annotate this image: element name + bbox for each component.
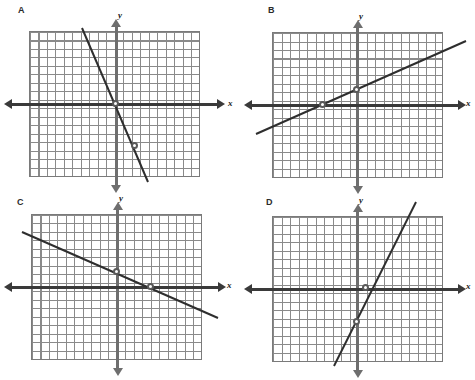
panel-a-point-marker — [112, 100, 119, 107]
panel-a-point-marker — [131, 142, 138, 149]
panel-b-plot: y x — [238, 0, 475, 190]
panel-c-point-marker — [113, 268, 120, 275]
panel-d-point-marker — [362, 284, 369, 291]
panel-c-plot: y x — [0, 190, 238, 380]
panel-b-line — [238, 0, 475, 190]
panel-a-line — [0, 0, 238, 190]
panel-c-point-marker — [147, 283, 154, 290]
panel-b: B y x — [238, 0, 475, 190]
panel-b-point-marker — [319, 101, 326, 108]
panel-d-plot: y x — [238, 190, 475, 380]
panel-c: C y x — [0, 190, 238, 380]
panel-a-plot: y x — [0, 0, 238, 190]
panel-b-point-marker — [353, 86, 360, 93]
panel-c-line — [0, 190, 238, 380]
panel-d-line — [238, 190, 475, 380]
figure-sheet: A y x B — [0, 0, 475, 380]
panel-d: D y x — [238, 190, 475, 380]
panel-a: A y x — [0, 0, 238, 190]
panel-d-point-marker — [353, 318, 360, 325]
